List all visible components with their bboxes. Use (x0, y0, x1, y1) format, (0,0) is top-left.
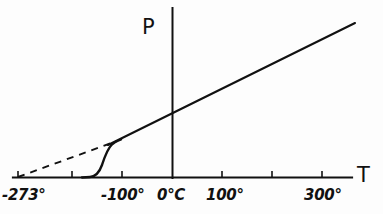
x-axis-title: T (357, 165, 370, 186)
plot-canvas (0, 0, 383, 214)
extrapolation-dashed-line (18, 141, 117, 177)
x-tick-label-zero: 0°C (157, 188, 185, 203)
x-tick-label-pos300: 300° (304, 188, 342, 203)
x-tick-label-neg273: -273° (2, 188, 46, 203)
y-axis-title: P (142, 17, 155, 38)
x-tick-label-neg100: -100° (101, 188, 145, 203)
pressure-temperature-figure: P T -273° -100° 0°C 100° 300° (0, 0, 383, 214)
x-tick-label-pos100: 100° (206, 188, 244, 203)
real-gas-condensation-curve (82, 140, 121, 178)
ideal-gas-straight-line (108, 23, 355, 145)
